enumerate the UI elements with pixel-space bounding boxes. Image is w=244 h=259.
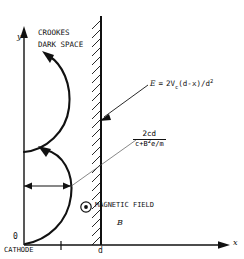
fraction-denominator: c+B2e/m [133,141,166,149]
x-axis-label: x [233,239,238,247]
fraction-numerator: 2cd [133,130,166,138]
wall-distance-label: d [98,247,103,255]
upper-arc-arrowhead [42,51,54,63]
lower-arc-arrowhead [38,146,51,157]
y-axis-label: y [17,33,22,41]
magnetic-field-label: MAGNETIC FIELD [95,202,154,209]
efield-expr-superscript: 2 [210,78,213,84]
efield-equals: = [158,79,163,88]
fraction-denominator-a: c+B [135,140,148,148]
x-axis [24,241,230,250]
max-width-dimension-arrow [24,183,71,190]
efield-leader-line [99,85,148,121]
upper-cycloid-arc [24,51,70,152]
origin-label: 0 [13,233,18,241]
efield-equation: E=2Vc(d-x)/d2 [150,80,213,88]
efield-symbol: E [150,79,155,88]
crookes-label-line2: DARK SPACE [38,41,83,49]
fraction-leader-line [70,140,136,187]
cathode-label: CATHODE [4,247,34,254]
magnetic-field-symbol: B [117,219,123,227]
efield-expr-a: 2V [166,79,175,88]
anode-wall [92,16,101,245]
lower-cycloid-arc [25,146,71,244]
crookes-label-line1: CROOKES [38,29,70,37]
dot-in-circle-icon [81,202,91,212]
y-axis [20,26,28,245]
max-width-fraction: 2cd c+B2e/m [133,130,166,149]
efield-expr-b: (d-x)/d [178,79,210,88]
crookes-dark-space-figure: y x 0 CATHODE d CROOKES DARK SPACE E=2Vc… [0,0,244,259]
fraction-denominator-b: e/m [151,140,164,148]
